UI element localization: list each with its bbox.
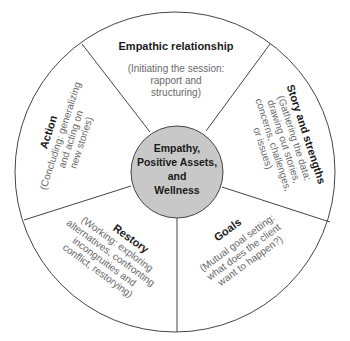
center-line-3: and: [168, 170, 187, 182]
center-line-4: Wellness: [154, 184, 199, 196]
segment-subtitle-line: (Initiating the session:: [128, 63, 225, 74]
segment-title: Empathic relationship: [119, 40, 234, 52]
five-stage-wheel-diagram: Empathy, Positive Assets, and Wellness E…: [0, 0, 350, 341]
segment-subtitle-line: structuring): [151, 87, 201, 98]
center-line-2: Positive Assets,: [137, 156, 217, 168]
segment-subtitle-line: rapport and: [150, 75, 201, 86]
wheel-svg: Empathy, Positive Assets, and Wellness E…: [0, 0, 350, 341]
center-line-1: Empathy,: [154, 142, 201, 154]
